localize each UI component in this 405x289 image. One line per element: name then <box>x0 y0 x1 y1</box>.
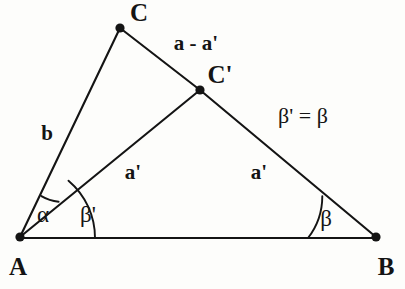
angle-label-alpha: α <box>37 203 49 226</box>
vertex-label-A: A <box>9 254 27 279</box>
vertex-label-C: C <box>130 0 148 25</box>
vertex-dot-Cprime <box>195 85 204 94</box>
angle-label-beta_prime: β' <box>80 203 96 226</box>
vertex-label-B: B <box>378 254 395 279</box>
angle-label-beta: β <box>320 207 332 230</box>
vertex-dot-C <box>115 23 124 32</box>
geometry-diagram: ABCC' ba - a'a'a' αβ'β β' = β <box>0 0 405 289</box>
relation-label-beta_equality: β' = β <box>278 105 328 127</box>
side-label-a_prime1: a' <box>125 162 141 183</box>
side-label-a_minus: a - a' <box>174 33 218 54</box>
segment-AC <box>20 28 120 237</box>
side-label-b: b <box>41 123 53 144</box>
vertex-dot-B <box>371 232 380 241</box>
side-label-a_prime2: a' <box>251 162 267 183</box>
vertex-label-Cprime: C' <box>208 62 233 87</box>
vertex-dot-A <box>15 232 24 241</box>
